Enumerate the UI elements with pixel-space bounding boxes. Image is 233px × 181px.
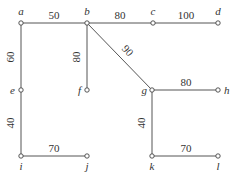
edge-weight-c-d: 100 xyxy=(178,9,195,21)
node-label-b: b xyxy=(84,5,90,17)
edge-weight-i-j: 70 xyxy=(49,142,61,154)
node-i xyxy=(19,154,23,158)
edge-weight-g-h: 80 xyxy=(181,76,193,88)
node-g xyxy=(150,88,154,92)
edge-weight-a-e: 60 xyxy=(4,51,16,63)
node-label-i: i xyxy=(19,160,22,172)
edge-weight-a-b: 50 xyxy=(49,9,61,21)
node-f xyxy=(85,88,89,92)
edge-b-g xyxy=(87,23,152,90)
edge-weight-b-g: 90 xyxy=(120,42,137,59)
edge-weight-b-c: 80 xyxy=(115,9,127,21)
node-label-d: d xyxy=(215,5,221,17)
node-l xyxy=(216,154,220,158)
node-d xyxy=(216,21,220,25)
graph-diagram: 50801006080908040704070 abcdefghijkl xyxy=(0,0,233,181)
node-label-k: k xyxy=(150,160,156,172)
node-e xyxy=(19,88,23,92)
node-c xyxy=(151,21,155,25)
node-label-a: a xyxy=(18,5,24,17)
node-a xyxy=(19,21,23,25)
node-label-f: f xyxy=(78,84,83,96)
node-label-g: g xyxy=(142,84,148,96)
node-label-h: h xyxy=(224,84,230,96)
node-k xyxy=(150,154,154,158)
node-b xyxy=(85,21,89,25)
edge-weight-k-l: 70 xyxy=(181,142,193,154)
node-h xyxy=(216,88,220,92)
node-label-c: c xyxy=(151,5,156,17)
node-j xyxy=(85,154,89,158)
node-label-e: e xyxy=(10,84,15,96)
edge-weight-b-f: 80 xyxy=(70,51,82,63)
edge-weight-e-i: 40 xyxy=(4,117,16,129)
edge-weight-g-k: 40 xyxy=(135,117,147,129)
node-label-j: j xyxy=(83,160,88,172)
node-label-l: l xyxy=(216,160,219,172)
